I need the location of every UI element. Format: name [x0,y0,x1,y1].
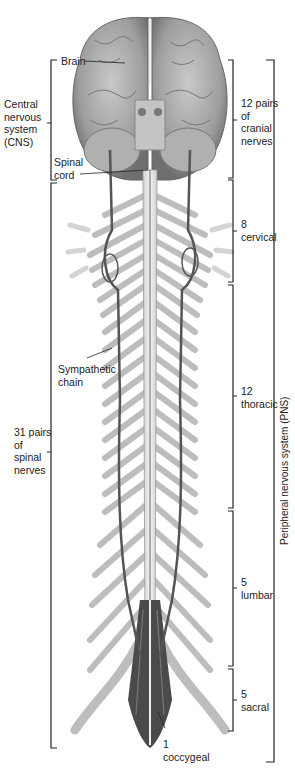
cranial-bracket [228,60,237,178]
cervical-bracket [228,180,237,282]
cns-label: Central nervous system (CNS) [4,98,41,148]
sympathetic-chain-leader-line [87,348,112,358]
coccygeal-label-line: coccygeal [163,751,210,764]
cranial-nerves-label-line: cranial [241,122,278,135]
sympathetic-chain-label-line: chain [58,376,116,389]
spinal-cord [143,170,157,640]
pns-bracket [266,60,274,762]
sacral-label-line: 5 [241,688,269,701]
cranial-nerves-label-line: of [241,110,278,123]
lumbar-label-line: lumbar [241,589,273,602]
spinal-nerves-label-line: spinal [14,451,51,464]
brain [73,17,227,180]
cns-label-line: (CNS) [4,136,41,149]
thoracic-label: 12 thoracic [241,385,278,410]
cns-label-line: nervous [4,111,41,124]
brain-label: Brain [61,55,86,68]
spinal-nerves-label-line: nerves [14,464,51,477]
spinal-cord-label-line: cord [54,169,83,182]
cranial-nerves-label: 12 pairs of cranial nerves [241,97,278,147]
sacral-label-line: sacral [241,701,269,714]
thoracic-label-line: 12 [241,385,278,398]
pns-label: Peripheral nervous system (PNS) [279,397,290,545]
cervical-label-line: 8 [241,218,277,231]
spinal-cord-label: Spinal cord [54,156,83,181]
sacral-label: 5 sacral [241,688,269,713]
spinal-nerves-label-line: 31 pairs [14,426,51,439]
sacral-bracket [228,669,237,731]
lumbar-bracket [228,511,237,666]
cranial-nerves-label-line: 12 pairs [241,97,278,110]
thoracic-label-line: thoracic [241,398,278,411]
spinal-nerves-label: 31 pairs of spinal nerves [14,426,51,476]
spinal-nerves-label-line: of [14,439,51,452]
coccygeal-label: 1 coccygeal [163,738,210,763]
lumbar-label-line: 5 [241,576,273,589]
thoracic-bracket [228,285,237,508]
cervical-label-line: cervical [241,231,277,244]
cranial-nerves-label-line: nerves [241,135,278,148]
lumbar-label: 5 lumbar [241,576,273,601]
coccygeal-label-line: 1 [163,738,210,751]
cns-label-line: system [4,123,41,136]
spinal-cord-label-line: Spinal [54,156,83,169]
sympathetic-chain-label-line: Sympathetic [58,363,116,376]
sympathetic-chain-label: Sympathetic chain [58,363,116,388]
cervical-label: 8 cervical [241,218,277,243]
cns-label-line: Central [4,98,41,111]
